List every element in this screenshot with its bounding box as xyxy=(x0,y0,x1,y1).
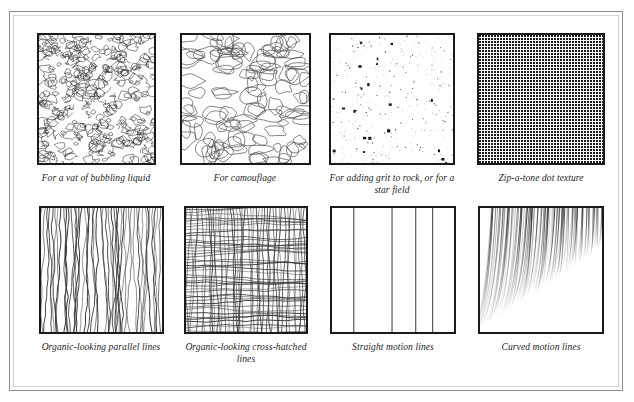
texture-panel-straight-motion: Straight motion lines xyxy=(324,206,462,353)
caption-organic-crosshatch: Organic-looking cross-hatched lines xyxy=(176,341,316,365)
caption-grit-star-field: For adding grit to rock, or for a star f… xyxy=(324,172,460,196)
texture-dense-organic-blobs xyxy=(39,35,154,163)
texture-panel-organic-crosshatch: Organic-looking cross-hatched lines xyxy=(176,206,316,365)
figure-outer-frame: For a vat of bubbling liquid For camoufl… xyxy=(9,11,623,391)
swatch-straight-motion xyxy=(330,206,456,334)
swatch-camouflage xyxy=(180,33,311,165)
texture-wavy-vertical-lines xyxy=(41,208,162,332)
texture-panel-camouflage: For camouflage xyxy=(174,33,316,184)
caption-curved-motion: Curved motion lines xyxy=(470,341,612,353)
caption-organic-parallel: Organic-looking parallel lines xyxy=(30,341,172,353)
texture-panel-organic-parallel: Organic-looking parallel lines xyxy=(30,206,172,353)
texture-panel-grit-star-field: For adding grit to rock, or for a star f… xyxy=(324,33,460,196)
texture-wavy-crosshatch xyxy=(186,208,306,332)
caption-bubbling-liquid: For a vat of bubbling liquid xyxy=(30,172,162,184)
caption-camouflage: For camouflage xyxy=(174,172,316,184)
caption-zip-a-tone: Zip-a-tone dot texture xyxy=(470,172,612,184)
texture-sample-grid: For a vat of bubbling liquid For camoufl… xyxy=(14,16,628,396)
texture-panel-zip-a-tone: Zip-a-tone dot texture xyxy=(470,33,612,184)
swatch-organic-crosshatch xyxy=(184,206,308,334)
caption-straight-motion: Straight motion lines xyxy=(324,341,462,353)
texture-large-organic-blobs xyxy=(182,35,309,163)
swatch-zip-a-tone xyxy=(477,33,605,165)
figure-inner-frame: For a vat of bubbling liquid For camoufl… xyxy=(13,15,619,387)
texture-panel-curved-motion: Curved motion lines xyxy=(470,206,612,353)
swatch-bubbling-liquid xyxy=(37,33,156,165)
texture-random-speckle xyxy=(331,35,453,163)
swatch-grit-star-field xyxy=(329,33,455,165)
swatch-curved-motion xyxy=(478,206,604,334)
figure-page: For a vat of bubbling liquid For camoufl… xyxy=(0,0,634,402)
texture-panel-bubbling-liquid: For a vat of bubbling liquid xyxy=(30,33,162,184)
swatch-organic-parallel xyxy=(39,206,164,334)
texture-vertical-speed-lines xyxy=(332,208,454,332)
texture-regular-dot-grid xyxy=(479,35,603,163)
texture-radiating-curved-lines xyxy=(480,208,602,332)
